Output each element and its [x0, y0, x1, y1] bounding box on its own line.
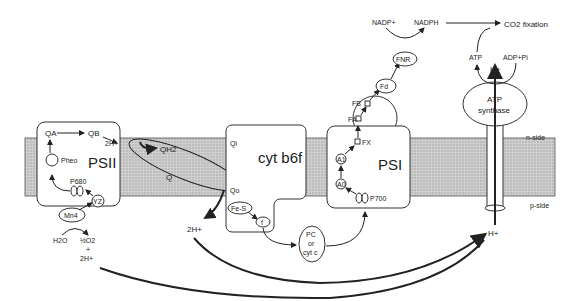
fa-cluster — [356, 116, 361, 121]
nadph-label: NADPH — [414, 19, 439, 26]
qa-label: QA — [45, 129, 57, 138]
a1-label: A1 — [337, 156, 346, 163]
fb-label: FB — [352, 100, 361, 107]
q-label: Q — [166, 173, 172, 182]
two-h-top-label: 2H+ — [105, 140, 118, 147]
cyt-f — [256, 217, 270, 227]
psi-label: PSI — [378, 156, 402, 173]
h2o-label: H2O — [53, 237, 68, 244]
psii-label: PSII — [88, 154, 116, 171]
p700-pigment — [356, 193, 362, 203]
fa-label: FA — [348, 116, 357, 123]
co2-fixation-label: CO2 fixation — [504, 20, 548, 29]
h-top-label: H+ — [490, 65, 501, 74]
adp-pi-label: ADP+Pi — [503, 54, 528, 61]
yz-label: YZ — [93, 198, 103, 205]
n-side-label: n-side — [526, 134, 545, 141]
p-side-label: p-side — [530, 202, 549, 210]
plus-label: + — [86, 246, 90, 253]
atp-label: ATP — [469, 54, 482, 61]
p700-label: P700 — [370, 195, 386, 202]
half-o2-label: ½O2 — [80, 237, 95, 244]
a0-label: A0 — [337, 181, 346, 188]
fb-cluster — [365, 101, 370, 106]
pc-or-label: or — [308, 240, 315, 247]
fd-label: Fd — [380, 83, 388, 90]
pheo-label: Pheo — [61, 157, 77, 164]
nadp-label: NADP+ — [372, 19, 396, 26]
p680-label: P680 — [70, 178, 86, 185]
pheo-circle — [46, 154, 58, 166]
two-h-mid-label: 2H+ — [187, 225, 202, 234]
p680-pigment — [71, 186, 77, 196]
photosynthesis-diagram: PSII QA QB Pheo P680 YZ Mn4 H2O ½O2 + 2H… — [0, 0, 577, 301]
qh2-label: QH2 — [160, 145, 177, 154]
fes-label: Fe-S — [231, 205, 247, 212]
cyt-f-label: f — [261, 219, 263, 226]
qb-label: QB — [88, 129, 100, 138]
cytb6f-label: cyt b6f — [258, 149, 303, 166]
two-h-bottom-label: 2H+ — [80, 255, 93, 262]
qo-label: Qo — [230, 187, 239, 195]
fnr-label: FNR — [396, 56, 410, 63]
pc-label: PC — [306, 231, 316, 238]
qi-label: Qi — [230, 140, 237, 148]
fx-label: FX — [362, 139, 371, 146]
cytc-label: cyt c — [303, 249, 318, 257]
fx-cluster — [355, 139, 360, 144]
h-bottom-label: H+ — [488, 229, 499, 238]
mn-label: Mn4 — [64, 212, 78, 219]
cytb6f-complex — [226, 125, 306, 232]
